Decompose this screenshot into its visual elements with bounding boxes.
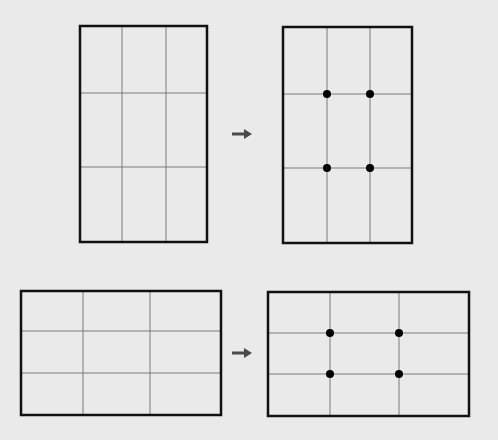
frame-border (283, 27, 412, 243)
portrait-frame-before (80, 26, 207, 242)
landscape-frame-before (21, 291, 221, 415)
diagram-canvas: Rule of thirds grid: intersection points (0, 0, 498, 440)
frame-border (268, 292, 469, 416)
intersection-point (395, 329, 403, 337)
arrow-right-icon (232, 129, 252, 139)
frame-border (21, 291, 221, 415)
arrow-right-icon (232, 348, 252, 358)
frame-border (80, 26, 207, 242)
intersection-point (326, 370, 334, 378)
intersection-point (395, 370, 403, 378)
intersection-point (323, 90, 331, 98)
intersection-point (323, 164, 331, 172)
landscape-frame-after (268, 292, 469, 416)
rule-of-thirds-diagram (0, 0, 498, 440)
portrait-frame-after (283, 27, 412, 243)
intersection-point (326, 329, 334, 337)
intersection-point (366, 90, 374, 98)
intersection-point (366, 164, 374, 172)
